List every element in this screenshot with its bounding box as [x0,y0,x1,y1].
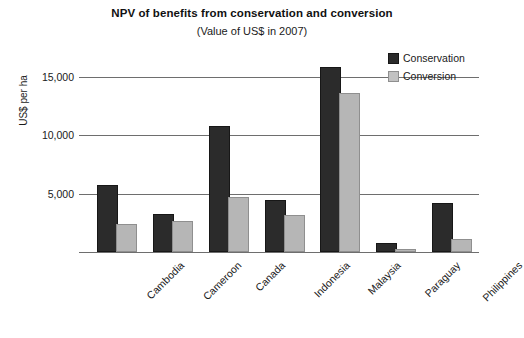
x-axis-tick-label-paraguay: Paraguay [422,259,462,299]
bar-conversion-canada [228,197,249,252]
bar-group [265,58,303,252]
bar-conversion-philippines [451,239,472,252]
y-axis-tick-label: 15,000 [14,71,74,83]
bar-conservation-canada [209,126,230,252]
bar-group [153,58,191,252]
x-axis-tick-label-cameroon: Cameroon [200,259,243,302]
y-axis-tick-label: 5,000 [14,188,74,200]
bar-group [320,58,358,252]
bar-conservation-malaysia [320,67,341,252]
x-axis-tick-labels: CambodiaCameroonCanadaIndonesiaMalaysiaP… [88,253,479,338]
x-axis-tick-label-cambodia: Cambodia [144,259,186,301]
bar-conversion-malaysia [339,93,360,252]
legend-item-conservation[interactable]: Conservation [388,50,504,66]
bar-conversion-indonesia [284,215,305,252]
legend-swatch-icon [388,53,399,64]
bar-conversion-cambodia [116,224,137,252]
y-axis-tick [79,77,88,78]
legend-label: Conversion [403,70,456,82]
plot-area [88,58,479,252]
y-axis-tick-labels: 5,00010,00015,000 [14,58,74,252]
bar-group [97,58,135,252]
bar-group [209,58,247,252]
legend-label: Conservation [403,52,465,64]
x-axis-tick-label-canada: Canada [252,259,286,293]
bar-conservation-cameroon [153,214,174,252]
legend-swatch-icon [388,71,399,82]
bar-group [432,58,470,252]
chart-legend: ConservationConversion [388,50,504,86]
y-axis-tick [79,194,88,195]
bar-group [376,58,414,252]
chart-title: NPV of benefits from conservation and co… [0,7,504,19]
x-axis-tick-label-philippines: Philippines [480,259,524,303]
chart-subtitle: (Value of US$ in 2007) [0,25,504,37]
bar-conservation-cambodia [97,185,118,252]
x-axis-tick-label-indonesia: Indonesia [311,259,352,300]
y-axis-tick-label: 10,000 [14,129,74,141]
legend-item-conversion[interactable]: Conversion [388,68,504,84]
bar-conservation-indonesia [265,200,286,252]
bar-conservation-philippines [432,203,453,252]
y-axis-tick [79,135,88,136]
bar-conversion-cameroon [172,221,193,252]
x-axis-tick-label-malaysia: Malaysia [365,259,403,297]
bar-conservation-paraguay [376,243,397,252]
